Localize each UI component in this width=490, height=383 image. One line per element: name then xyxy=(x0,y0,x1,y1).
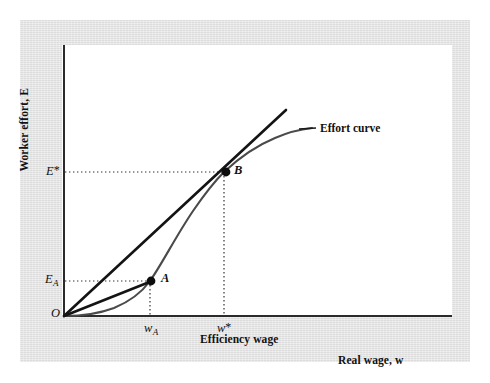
x-axis-title-efficiency-wage: Efficiency wage xyxy=(200,334,278,346)
x-tick-label-w-star: w* xyxy=(217,322,231,335)
effort-curve-annotation: Effort curve xyxy=(320,123,380,135)
origin-label: O xyxy=(51,307,60,320)
y-tick-label-e-a: EA xyxy=(45,273,58,286)
y-axis-title: Worker effort, E xyxy=(19,88,31,171)
figure-root: Worker effort, E Efficiency wage Real wa… xyxy=(0,0,490,383)
y-tick-e-star-base: E xyxy=(46,164,54,178)
effort-curve-leader-line xyxy=(299,128,316,129)
tangent-ray-through-b xyxy=(64,110,286,316)
x-tick-w-star-mark: * xyxy=(225,320,231,334)
point-label-b: B xyxy=(234,164,242,177)
y-tick-e-a-sub: A xyxy=(53,278,59,288)
chart-vector-layer xyxy=(0,0,490,383)
y-tick-e-a-base: E xyxy=(45,272,53,286)
x-tick-w-a-sub: A xyxy=(153,327,159,337)
y-tick-e-star-mark: * xyxy=(54,163,60,177)
x-tick-label-w-a: wA xyxy=(144,322,158,335)
marker-point-b xyxy=(222,168,231,177)
marker-point-a xyxy=(147,277,156,286)
y-tick-label-e-star: E* xyxy=(46,165,60,178)
x-axis-title-real-wage: Real wage, w xyxy=(338,355,403,367)
point-label-a: A xyxy=(161,272,169,285)
x-tick-w-a-base: w xyxy=(144,321,152,335)
effort-curve xyxy=(64,128,312,316)
